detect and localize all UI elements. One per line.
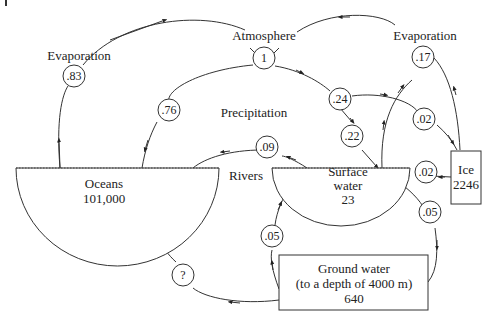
ocean-evap-value: .83 (67, 69, 82, 83)
precip-ocean-value: .76 (162, 103, 177, 117)
ground-water-sub: (to a depth of 4000 m) (296, 276, 413, 291)
ground-to-surface-value: .05 (265, 229, 280, 243)
rivers-value: .09 (260, 140, 275, 154)
oceans-value: 101,000 (83, 191, 125, 206)
precip-ice-value: .02 (417, 112, 432, 126)
rivers-arrow (282, 156, 307, 168)
ground-to-surface-arrow (271, 250, 279, 289)
precip-surface-value: .22 (345, 129, 360, 143)
ground-to-ocean-arrow (193, 288, 279, 302)
ground-water-label: Ground water (318, 261, 391, 276)
atmosphere-label: Atmosphere (232, 28, 296, 43)
ice-melt-value: .02 (419, 165, 434, 179)
ice-value: 2246 (453, 177, 480, 192)
land-precipitation-arrow (275, 66, 330, 91)
ocean-evaporation-arrow (59, 86, 68, 168)
surface-water-label-2: water (334, 178, 364, 193)
evaporation-left-label: Evaporation (47, 48, 111, 63)
land-evap-value: .17 (416, 50, 431, 64)
atmosphere-value: 1 (261, 51, 267, 65)
ice-label: Ice (458, 162, 474, 177)
precip-land-value: .24 (333, 92, 348, 106)
land-evaporation-arrow (382, 80, 412, 168)
ocean-precipitation-arrow (169, 65, 253, 102)
land-evaporation-return-arrow (297, 15, 395, 32)
rivers-label: Rivers (229, 168, 263, 183)
evaporation-right-label: Evaporation (393, 28, 457, 43)
surface-to-ground-value: .05 (423, 205, 438, 219)
surface-water-label-1: Surface (328, 164, 368, 179)
ground-water-value: 640 (344, 291, 364, 306)
precipitation-label: Precipitation (221, 105, 288, 120)
surface-water-value: 23 (342, 192, 355, 207)
oceans-label: Oceans (85, 176, 123, 191)
ground-to-ocean-value: ? (180, 268, 185, 282)
ice-precipitation-arrow (352, 95, 418, 112)
water-cycle-diagram: 1 .83 .76 .24 .22 .02 .17 .09 .02 .05 .0… (0, 0, 493, 322)
